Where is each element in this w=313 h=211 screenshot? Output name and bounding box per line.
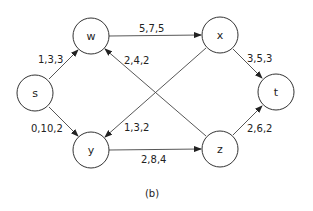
figure-caption: (b) (145, 188, 159, 199)
node-label-t: t (274, 86, 279, 99)
node-label-y: y (88, 144, 95, 157)
edge-w-x (109, 35, 201, 36)
node-t: t (258, 74, 294, 110)
node-label-z: z (217, 143, 223, 156)
node-label-x: x (217, 29, 224, 42)
edge-label-x-y: 1,3,2 (124, 122, 149, 133)
node-x: x (202, 17, 238, 53)
flow-network-diagram: 1,3,3 5,7,5 3,5,3 0,10,2 2,8,4 2,6,2 2,4… (0, 0, 313, 211)
node-label-s: s (32, 87, 38, 100)
edge-label-y-z: 2,8,4 (141, 154, 166, 165)
edge-label-x-t: 3,5,3 (247, 53, 272, 64)
node-s: s (17, 75, 53, 111)
edge-label-z-w: 2,4,2 (124, 55, 149, 66)
node-w: w (73, 18, 109, 54)
edge-label-s-y: 0,10,2 (31, 123, 63, 134)
node-z: z (202, 131, 238, 167)
edge-label-w-x: 5,7,5 (139, 23, 164, 34)
node-label-w: w (87, 30, 96, 43)
edge-y-z (109, 149, 201, 150)
edge-label-s-w: 1,3,3 (38, 54, 63, 65)
node-y: y (73, 132, 109, 168)
edge-label-z-t: 2,6,2 (247, 123, 272, 134)
edge-x-y (105, 48, 206, 137)
